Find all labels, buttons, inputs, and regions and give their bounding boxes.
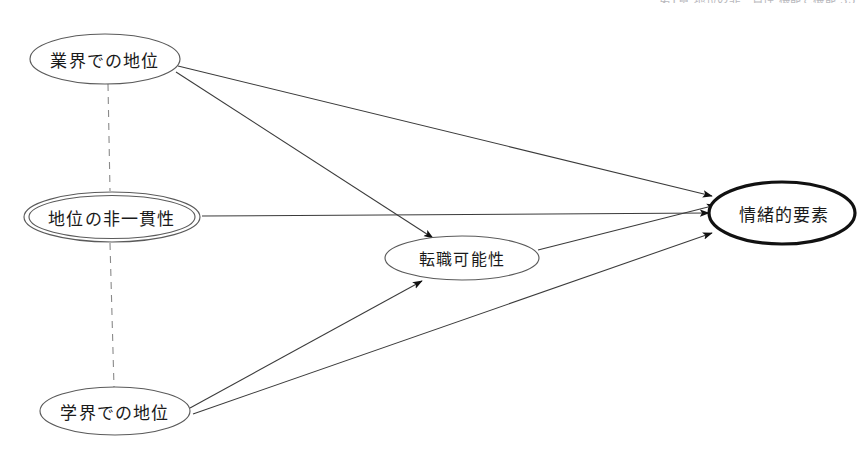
- node-emotional-factor-ellipse[interactable]: [709, 182, 855, 244]
- node-industry-status-ellipse[interactable]: [30, 34, 180, 84]
- edge-academic-to-mobility: [190, 281, 422, 408]
- node-academic-status-ellipse[interactable]: [40, 387, 190, 435]
- dashed-connector-inconsistency-academic: [110, 243, 114, 387]
- edge-industry-to-emotional: [178, 66, 712, 196]
- edge-mobility-to-emotional: [538, 205, 716, 250]
- node-job-mobility-ellipse[interactable]: [385, 236, 539, 280]
- diagram-page: 第1章 地位の非一貫性 機能と機能 35: [0, 0, 864, 449]
- node-status-inconsistency-ellipse-inner: [29, 196, 195, 239]
- path-diagram: [0, 0, 864, 449]
- edge-inconsistency-to-emotional: [202, 213, 709, 216]
- dashed-connector-industry-inconsistency: [108, 84, 110, 191]
